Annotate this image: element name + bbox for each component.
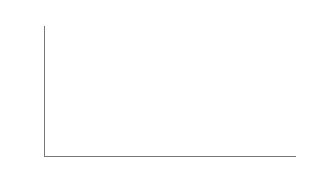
y-axis [44,26,45,156]
x-axis [44,156,296,157]
